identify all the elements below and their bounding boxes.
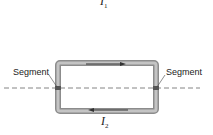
current-subscript: 2 (105, 122, 109, 130)
right-segment-mark (153, 86, 159, 90)
left-segment-label: Segment (13, 67, 49, 77)
current-label-i2: I2 (101, 114, 109, 130)
wire-loop-outer (58, 63, 156, 111)
left-segment-mark (55, 86, 61, 90)
right-segment-label: Segment (166, 67, 202, 77)
wire-loop-inner (58, 63, 156, 111)
